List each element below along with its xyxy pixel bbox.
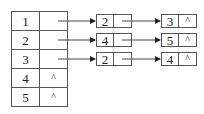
node-value-cell: 4 bbox=[161, 52, 179, 66]
null-pointer-icon: ^ bbox=[185, 16, 190, 26]
node-value-cell: 3 bbox=[161, 14, 179, 28]
node-value-cell: 2 bbox=[96, 14, 114, 28]
head-pointer-cell: ^ bbox=[39, 87, 68, 107]
node-next-cell bbox=[113, 52, 132, 66]
node-next-cell: ^ bbox=[178, 33, 197, 47]
head-index-cell: 5 bbox=[11, 87, 40, 107]
node-value-cell: 5 bbox=[161, 33, 179, 47]
null-pointer-icon: ^ bbox=[185, 54, 190, 64]
null-pointer-icon: ^ bbox=[51, 92, 56, 102]
head-pointer-cell: ^ bbox=[39, 68, 68, 88]
head-pointer-cell bbox=[39, 30, 68, 50]
node-next-cell: ^ bbox=[178, 14, 197, 28]
null-pointer-icon: ^ bbox=[185, 35, 190, 45]
head-pointer-cell bbox=[39, 49, 68, 69]
head-index-cell: 1 bbox=[11, 11, 40, 31]
node-value-cell: 4 bbox=[96, 33, 114, 47]
head-index-cell: 4 bbox=[11, 68, 40, 88]
node-next-cell: ^ bbox=[178, 52, 197, 66]
node-value-cell: 2 bbox=[96, 52, 114, 66]
null-pointer-icon: ^ bbox=[51, 73, 56, 83]
node-next-cell bbox=[113, 14, 132, 28]
head-pointer-cell bbox=[39, 11, 68, 31]
head-index-cell: 2 bbox=[11, 30, 40, 50]
node-next-cell bbox=[113, 33, 132, 47]
head-index-cell: 3 bbox=[11, 49, 40, 69]
